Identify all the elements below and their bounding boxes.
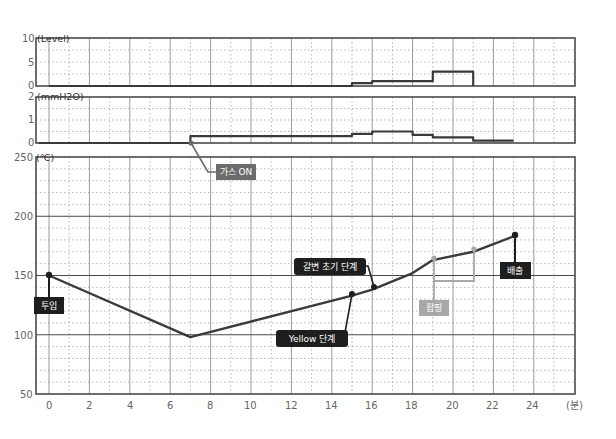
x-tick: 18: [405, 400, 418, 411]
temp-tick-250: 250: [14, 152, 33, 163]
annotation-gas-on-label: 가스 ON: [220, 167, 253, 177]
x-tick: 6: [167, 400, 173, 411]
x-tick: 2: [86, 400, 92, 411]
annotation-yellow-stage: Yellow 단계: [276, 291, 355, 347]
pressure-unit: (mmH2O): [37, 91, 84, 102]
annotation-input-label: 투입: [41, 300, 57, 311]
temp-tick-100: 100: [14, 330, 33, 341]
x-tick: 4: [127, 400, 133, 411]
annotation-early-browning: 갈변 초기 단계: [294, 258, 377, 290]
x-tick: 22: [486, 400, 499, 411]
level-unit: (Level): [37, 33, 70, 44]
x-tick: 14: [325, 400, 338, 411]
annotation-yellow-stage-label: Yellow 단계: [288, 333, 336, 344]
level-tick-10: 10: [22, 33, 35, 44]
pressure-tick-2: 2: [28, 91, 34, 102]
annotation-gas-on: 가스 ON: [188, 140, 256, 180]
x-tick: 12: [285, 400, 298, 411]
annotation-popping-label: 팝핑: [426, 302, 442, 313]
x-axis-ticks: 0 2 4 6 8 10 12 14 16 18 20 22 24 (분): [46, 400, 583, 411]
pressure-tick-0: 0: [28, 137, 34, 148]
annotation-input: 투입: [34, 272, 64, 314]
roasting-profile-chart: 10 (Level) 5 0 2 (mmH2O) 1 0 250 (℃) 200…: [0, 0, 616, 439]
annotation-early-browning-label: 갈변 초기 단계: [303, 261, 357, 272]
level-tick-5: 5: [28, 57, 34, 68]
x-tick: 16: [365, 400, 378, 411]
temp-tick-150: 150: [14, 270, 33, 281]
temp-unit: (℃): [36, 152, 54, 163]
level-tick-0: 0: [28, 80, 34, 91]
temp-tick-50: 50: [20, 389, 33, 400]
x-axis-unit: (분): [566, 400, 583, 411]
pressure-series-line: [39, 132, 514, 144]
annotation-discharge-label: 배출: [507, 266, 523, 276]
x-tick: 10: [244, 400, 257, 411]
pressure-tick-1: 1: [28, 114, 34, 125]
x-tick: 8: [207, 400, 213, 411]
temp-tick-200: 200: [14, 211, 33, 222]
x-tick: 24: [526, 400, 539, 411]
x-tick: 20: [446, 400, 459, 411]
x-tick: 0: [46, 400, 52, 411]
